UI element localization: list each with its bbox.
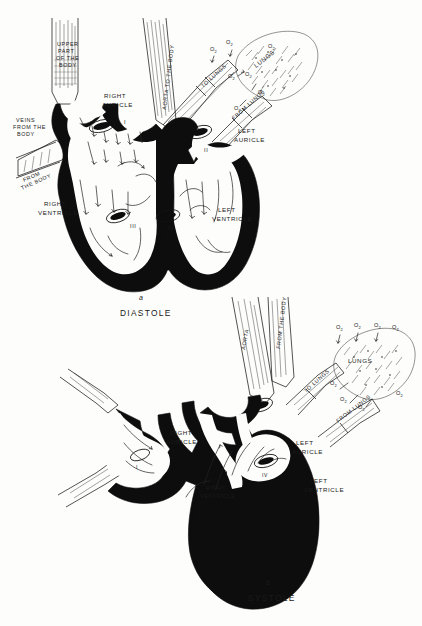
label-right-ventricle-line2: VENTRICLE [38, 209, 78, 216]
o2-subscript: 2 [341, 327, 344, 332]
caption-systole-name: SYSTOLE [248, 593, 296, 603]
label-right-auricle-systole-line1: RIGHT [170, 429, 192, 436]
label-left-ventricle-systole-line1: LEFT [310, 477, 328, 484]
label-left-auricle-systole-line1: LEFT [296, 439, 314, 446]
label-to-lungs-systole: TO LUNGS [303, 368, 331, 394]
o2-subscript: 2 [215, 49, 218, 54]
o2-subscript: 2 [273, 46, 276, 51]
o2-subscript: 2 [359, 325, 362, 330]
label-veins-from-body-line2: FROM THE [13, 124, 46, 130]
label-veins-from-body-line1: VEINS [16, 117, 35, 123]
vessel-aorta: AORTA TO THE BODY [143, 18, 176, 128]
o2-subscript: 2 [397, 327, 400, 332]
label-left-ventricle-line1: LEFT [218, 206, 236, 213]
valve-numeral-III: III [130, 223, 136, 229]
valve-numeral-IV: IV [168, 225, 175, 231]
figure-systole: AORTA II FROM THE BODY TO LUNGS FROM LUN… [0, 285, 422, 626]
o2-subscript: 2 [401, 393, 404, 398]
page-canvas: UPPER PART OF THE BODY AORTA TO THE BODY… [0, 0, 422, 626]
label-left-auricle-line2: AURICLE [234, 136, 265, 143]
label-right-ventricle-line1: RIGHT [44, 200, 66, 207]
label-right-ventricle-systole-line2: VENTRICLE [200, 493, 236, 499]
caption-letter-b: b [266, 579, 270, 586]
label-left-ventricle-line2: VENTRICLE [212, 215, 252, 222]
label-left-ventricle-systole-line2: VENTRICLE [304, 486, 344, 493]
o2-subscript: 2 [379, 325, 382, 330]
label-right-auricle-systole-line2: AURICLE [166, 438, 197, 445]
vessel-to-lungs-systole: TO LUNGS [286, 363, 344, 415]
o2-subscript: 2 [233, 76, 236, 81]
label-upper-part-of-body-line3: OF THE [56, 55, 79, 61]
label-veins-from-body-line3: BODY [17, 131, 35, 137]
o2-subscript: 2 [335, 383, 338, 388]
o2-subscript: 2 [345, 399, 348, 404]
o2-subscript: 2 [239, 108, 242, 113]
label-left-auricle-line1: LEFT [238, 127, 256, 134]
vessel-from-the-body-systole: FROM THE BODY [268, 296, 294, 387]
o2-subscript: 2 [250, 74, 253, 79]
label-aorta-to-the-body: AORTA TO THE BODY [161, 44, 175, 110]
label-from-the-body-systole: FROM THE BODY [275, 296, 287, 349]
vessel-upper-body: UPPER PART OF THE BODY [52, 18, 79, 104]
o2-subscript: 2 [263, 92, 266, 97]
valve-numeral-II: II [204, 147, 208, 153]
valve-numeral-I: I [124, 119, 126, 125]
label-aorta-systole: AORTA [240, 328, 250, 350]
o2-subscript: 2 [231, 42, 234, 47]
lungs-diastole: LUNGS [236, 31, 318, 100]
label-upper-part-of-body-line2: PART [58, 48, 74, 54]
label-right-auricle-line1: RIGHT [104, 92, 126, 99]
label-upper-part-of-body-line4: BODY [59, 62, 77, 68]
label-lungs-systole: LUNGS [348, 357, 372, 364]
heart-muscle-systole [100, 395, 319, 609]
label-left-auricle-systole-line2: AURICLE [292, 448, 323, 455]
valve-numeral-I-systole: I [136, 464, 138, 470]
label-right-ventricle-systole-line1: RIGHT [206, 485, 226, 491]
label-right-auricle-line2: AURICLE [102, 101, 133, 108]
o2-subscript: 2 [363, 407, 366, 412]
valve-numeral-IV-systole: IV [262, 472, 268, 478]
label-upper-part-of-body-line1: UPPER [57, 41, 79, 47]
